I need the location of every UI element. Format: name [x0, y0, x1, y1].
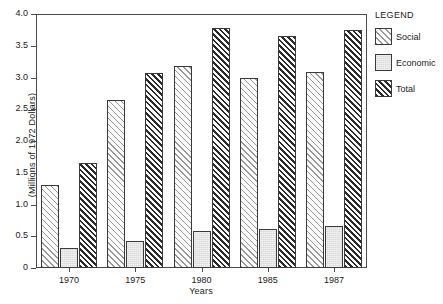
x-axis-tick-mark	[334, 268, 335, 272]
legend-swatch-total-icon	[375, 80, 392, 97]
bar-economic-1970	[60, 248, 78, 268]
y-axis-tick-label: 1.0	[15, 199, 28, 209]
y-axis-tick-mark	[31, 173, 36, 174]
legend-title: LEGEND	[375, 10, 443, 20]
legend-item-economic: Economic	[375, 54, 443, 71]
bar-social-1985	[240, 78, 258, 269]
y-axis-tick-label: 0.5	[15, 230, 28, 240]
y-axis-tick-label: 4.0	[15, 8, 28, 18]
y-axis-tick-mark	[31, 236, 36, 237]
bar-total-1980	[212, 28, 230, 268]
x-axis-tick-label: 1987	[308, 275, 360, 285]
legend-item-total: Total	[375, 80, 443, 97]
y-axis-tick-label: 3.5	[15, 40, 28, 50]
legend: LEGEND Social Economic Total	[375, 10, 443, 106]
x-axis-tick-mark	[268, 268, 269, 272]
bar-total-1970	[79, 163, 97, 268]
y-axis-tick-mark	[31, 141, 36, 142]
bar-social-1970	[41, 185, 59, 268]
y-axis-tick-mark	[31, 205, 36, 206]
bar-total-1985	[278, 36, 296, 268]
y-axis-tick-label: 2.5	[15, 103, 28, 113]
x-axis-tick-label: 1985	[242, 275, 294, 285]
bar-social-1975	[107, 100, 125, 268]
x-axis-tick-label: 1970	[43, 275, 95, 285]
x-axis-tick-mark	[202, 268, 203, 272]
bar-total-1987	[344, 30, 362, 268]
y-axis-tick-mark	[31, 78, 36, 79]
y-axis-tick-label: 3.0	[15, 72, 28, 82]
legend-label-economic: Economic	[396, 58, 436, 68]
legend-swatch-economic-icon	[375, 54, 392, 71]
x-axis-tick-mark	[69, 268, 70, 272]
y-axis-tick-mark	[31, 46, 36, 47]
x-axis-tick-label: 1980	[176, 275, 228, 285]
bar-economic-1985	[259, 229, 277, 268]
y-axis-tick-mark	[31, 14, 36, 15]
x-axis-tick-label: 1975	[109, 275, 161, 285]
x-axis-tick-mark	[135, 268, 136, 272]
bar-social-1980	[174, 66, 192, 268]
bar-social-1987	[306, 72, 324, 268]
x-axis-label: Years	[34, 286, 368, 296]
legend-item-social: Social	[375, 28, 443, 45]
bar-total-1975	[145, 73, 163, 268]
bar-chart: (Millions of 1972 Dollars) 4.03.53.02.52…	[0, 0, 443, 304]
legend-label-social: Social	[396, 32, 421, 42]
y-axis-tick-label: 0	[23, 262, 28, 272]
legend-swatch-social-icon	[375, 28, 392, 45]
bar-economic-1987	[325, 226, 343, 268]
bar-economic-1980	[193, 231, 211, 268]
y-axis-tick-label: 1.5	[15, 167, 28, 177]
legend-label-total: Total	[396, 84, 415, 94]
y-axis-tick-mark	[31, 268, 36, 269]
y-axis-tick-mark	[31, 109, 36, 110]
bar-economic-1975	[126, 241, 144, 268]
y-axis-tick-label: 2.0	[15, 135, 28, 145]
